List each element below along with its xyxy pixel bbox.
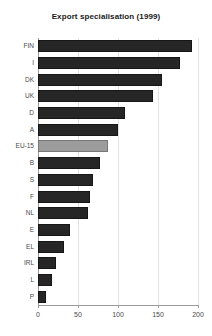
bar-uk	[38, 90, 153, 102]
bar-row	[38, 138, 198, 155]
x-tick-mark-50	[78, 305, 79, 308]
bar-irl	[38, 257, 56, 269]
bar-row	[38, 71, 198, 88]
bar-row	[38, 238, 198, 255]
bar-row	[38, 38, 198, 55]
y-tick-label-d: D	[0, 109, 34, 117]
y-tick-label-s: S	[0, 176, 34, 184]
y-tick-label-fin: FIN	[0, 42, 34, 50]
bar-row	[38, 288, 198, 305]
bar-row	[38, 172, 198, 189]
bar-row	[38, 255, 198, 272]
bar-row	[38, 188, 198, 205]
bar-a	[38, 124, 118, 136]
x-tick-label-200: 200	[186, 310, 210, 319]
x-tick-label-0: 0	[26, 310, 50, 319]
chart-title: Export specialisation (1999)	[0, 12, 212, 22]
bar-s	[38, 174, 93, 186]
bar-e	[38, 224, 70, 236]
y-tick-label-nl: NL	[0, 209, 34, 217]
y-tick-label-p: P	[0, 293, 34, 301]
bar-row	[38, 55, 198, 72]
y-tick-label-i: I	[0, 59, 34, 67]
bar-row	[38, 121, 198, 138]
y-tick-label-a: A	[0, 126, 34, 134]
bar-row	[38, 205, 198, 222]
bar-row	[38, 155, 198, 172]
x-tick-label-150: 150	[146, 310, 170, 319]
bar-f	[38, 191, 90, 203]
y-tick-label-el: EL	[0, 243, 34, 251]
y-tick-label-f: F	[0, 193, 34, 201]
x-tick-mark-200	[198, 305, 199, 308]
y-tick-label-irl: IRL	[0, 259, 34, 267]
chart-container: Export specialisation (1999) FINIDKUKDAE…	[0, 0, 212, 336]
bar-fin	[38, 40, 192, 52]
y-tick-label-b: B	[0, 159, 34, 167]
x-tick-mark-100	[118, 305, 119, 308]
x-tick-mark-150	[158, 305, 159, 308]
x-tick-label-50: 50	[66, 310, 90, 319]
gridline-x-200	[198, 38, 199, 305]
bar-row	[38, 88, 198, 105]
bar-p	[38, 291, 46, 303]
bar-eu-15	[38, 140, 108, 152]
bar-el	[38, 241, 64, 253]
bar-row	[38, 105, 198, 122]
y-tick-label-eu-15: EU-15	[0, 142, 34, 150]
x-tick-label-100: 100	[106, 310, 130, 319]
y-tick-label-uk: UK	[0, 92, 34, 100]
bar-row	[38, 222, 198, 239]
plot-area	[38, 38, 198, 305]
y-tick-label-l: L	[0, 276, 34, 284]
bar-d	[38, 107, 125, 119]
bar-row	[38, 272, 198, 289]
y-tick-label-e: E	[0, 226, 34, 234]
bar-b	[38, 157, 100, 169]
bar-l	[38, 274, 52, 286]
y-tick-label-dk: DK	[0, 76, 34, 84]
bar-nl	[38, 207, 88, 219]
bar-i	[38, 57, 180, 69]
bar-dk	[38, 74, 162, 86]
x-tick-mark-0	[38, 305, 39, 308]
